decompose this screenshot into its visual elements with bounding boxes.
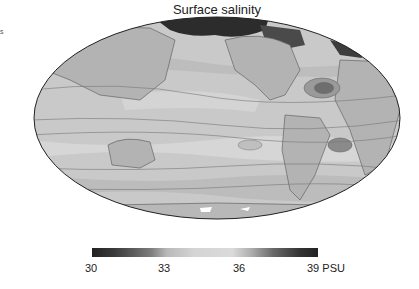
continent-australia [108,139,155,168]
colorbar-tick-36: 36 [233,262,245,274]
colorbar-tick-33: 33 [158,262,170,274]
colorbar [92,248,318,257]
salinity-map [0,0,419,289]
colorbar-tick-30: 30 [85,262,97,274]
colorbar-tick-39: 39 PSU [307,262,345,274]
continent-antarctica [30,203,405,225]
